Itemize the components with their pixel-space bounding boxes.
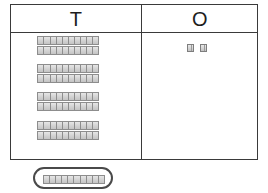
column-header-ones: O — [141, 5, 259, 33]
ten-rod-3[interactable] — [37, 64, 99, 73]
rod-unit-square — [93, 132, 98, 139]
rod-unit-square — [99, 176, 104, 183]
selected-ten-rod-lasso[interactable] — [33, 167, 113, 189]
worksheet-title: Place Value Chart — Tens and Ones — [0, 0, 1, 1]
ten-rod-7[interactable] — [37, 121, 99, 130]
rod-unit-square — [93, 47, 98, 54]
ten-rod-selected[interactable] — [43, 175, 105, 184]
rod-unit-square — [93, 93, 98, 100]
ten-rod-2[interactable] — [37, 46, 99, 55]
ten-rod-1[interactable] — [37, 36, 99, 45]
ones-column-cell[interactable] — [141, 33, 259, 159]
ten-rod-5[interactable] — [37, 92, 99, 101]
rod-unit-square — [93, 75, 98, 82]
place-value-worksheet: T O Place Value Chart — Tens and Ones — [0, 0, 268, 193]
rod-unit-square — [93, 37, 98, 44]
unit-cube-2[interactable] — [200, 44, 207, 52]
table-header-row: T O — [11, 5, 257, 33]
rod-unit-square — [93, 103, 98, 110]
column-header-tens: T — [11, 5, 141, 33]
ten-rod-6[interactable] — [37, 102, 99, 111]
ten-rod-4[interactable] — [37, 74, 99, 83]
ten-rod-8[interactable] — [37, 131, 99, 140]
rod-unit-square — [93, 122, 98, 129]
place-value-table: T O — [10, 4, 258, 160]
tens-column-cell[interactable] — [11, 33, 141, 159]
unit-cube-1[interactable] — [187, 44, 194, 52]
rod-unit-square — [93, 65, 98, 72]
